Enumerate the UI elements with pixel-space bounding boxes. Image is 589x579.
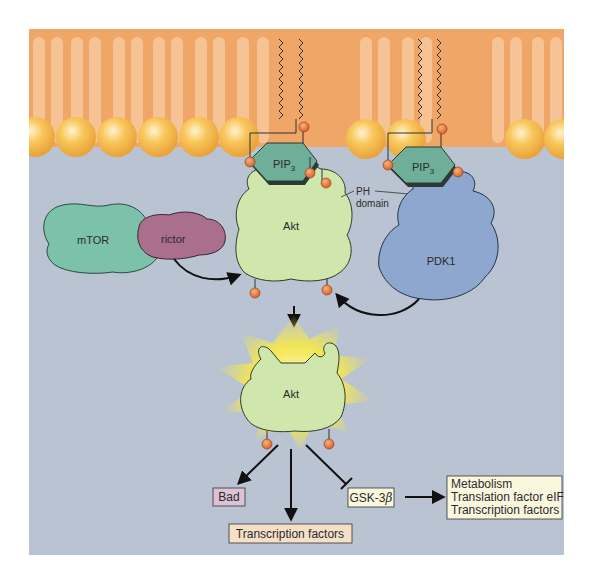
target-gsk3b: GSK-3β [348, 488, 394, 507]
akt-active-label: Akt [283, 388, 299, 400]
rictor-label: rictor [161, 233, 186, 245]
akt-to-bad-arrow [239, 445, 278, 483]
bad-label: Bad [218, 490, 239, 504]
pdk1-to-akt-arrow [337, 295, 419, 315]
pathway-diagram: mTOR rictor Akt PIP3 PH domain [29, 29, 564, 555]
domain-label: domain [356, 198, 389, 209]
akt-inhibits-gsk3b [306, 445, 346, 484]
outcome-metabolism: Metabolism [451, 477, 512, 491]
outcome-translation-factor: Translation factor eIF2B [451, 490, 564, 504]
mtor-label: mTOR [77, 234, 109, 246]
transcription-factors-label: Transcription factors [236, 527, 344, 541]
ph-label: PH [356, 186, 370, 197]
diagram-panel: mTOR rictor Akt PIP3 PH domain [29, 29, 564, 555]
mtor-to-akt-arrow [174, 259, 239, 279]
outcome-transcription-factors: Transcription factors [451, 503, 559, 517]
target-transcription-factors: Transcription factors [229, 524, 352, 543]
outcomes-box: Metabolism Translation factor eIF2B Tran… [447, 476, 564, 519]
akt-phosphate-site-1 [250, 288, 260, 298]
gsk3b-label: GSK-3β [350, 491, 393, 505]
mtor-rictor-complex: mTOR rictor [44, 204, 226, 273]
akt-active-phosphate-1 [262, 439, 272, 449]
plasma-membrane [29, 29, 564, 159]
akt-inactive-label: Akt [283, 220, 299, 232]
akt-active: Akt [215, 315, 375, 453]
akt-phosphate-site-2 [322, 285, 332, 295]
akt-active-phosphate-2 [324, 439, 334, 449]
pdk1-label: PDK1 [427, 255, 456, 267]
downstream-arrows [239, 445, 443, 519]
target-bad: Bad [213, 488, 245, 506]
